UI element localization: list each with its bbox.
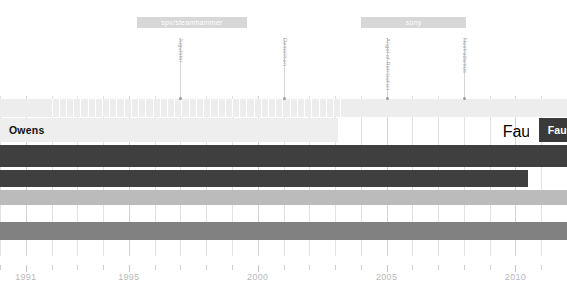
band-tickmark — [59, 99, 60, 117]
axis-label-2000: 2000 — [247, 272, 268, 282]
axis-label-2005: 2005 — [376, 272, 397, 282]
axis-tick-minor — [52, 265, 53, 270]
band-tickmark — [210, 99, 211, 117]
record-label-bar-spv-steamhammer: spv/steamhammer — [137, 17, 248, 28]
band-tickmark — [232, 99, 233, 117]
axis-tick-minor — [309, 265, 310, 270]
axis-tick-major — [258, 265, 259, 272]
band-tickmark — [304, 99, 305, 117]
axis-tick-minor — [155, 265, 156, 270]
band-tickmark — [275, 99, 276, 117]
bar-label-owens: Owens — [0, 124, 44, 136]
band-tickmark — [73, 99, 74, 117]
band-tickmark — [174, 99, 175, 117]
axis-tick-minor — [180, 265, 181, 270]
band-tickmark — [326, 99, 327, 117]
axis-tick-minor — [541, 265, 542, 270]
axis-tick-minor — [0, 265, 1, 270]
band-tickmark — [80, 99, 81, 117]
band-tickmark — [203, 99, 204, 117]
band-tickmark — [52, 99, 53, 117]
bar-faulkner[interactable]: Faulkner — [539, 118, 567, 142]
band-tickmark — [102, 99, 103, 117]
band-tickmark — [160, 99, 161, 117]
band-tickmark — [88, 99, 89, 117]
band-tickmark — [268, 99, 269, 117]
axis-tick-major — [129, 265, 130, 272]
band-tickmark — [145, 99, 146, 117]
bar-label-faulkner: Faulkner — [539, 124, 567, 136]
annotation-label: Jugulator — [178, 38, 184, 62]
bar-bar-5[interactable] — [0, 222, 567, 240]
bar-owens[interactable]: Owens — [0, 118, 338, 142]
band-tickmark — [95, 99, 96, 117]
axis-tick-minor — [103, 265, 104, 270]
axis-tick-minor — [490, 265, 491, 270]
record-label-text: sony — [406, 19, 422, 26]
band-tickmark — [297, 99, 298, 117]
band-tickmark — [225, 99, 226, 117]
bar-bar-3[interactable] — [0, 170, 528, 187]
axis-tick-minor — [284, 265, 285, 270]
band-tickmark — [167, 99, 168, 117]
band-tickmark — [124, 99, 125, 117]
band-tickmark — [116, 99, 117, 117]
axis-tick-minor — [438, 265, 439, 270]
annotation-label: Angel of Retribution — [385, 38, 391, 90]
band-tickmark — [189, 99, 190, 117]
bar-bar-4[interactable] — [0, 190, 567, 205]
annotation-label: Nostradamus — [462, 38, 468, 73]
annotation-dot — [463, 97, 466, 100]
band-tickmark — [311, 99, 312, 117]
band-tickmark — [282, 99, 283, 117]
record-label-bar-sony: sony — [361, 17, 467, 28]
baseline-strip — [0, 256, 567, 265]
band-tickmark — [109, 99, 110, 117]
axis-tick-minor — [335, 265, 336, 270]
axis-tick-minor — [206, 265, 207, 270]
band-tickmark — [218, 99, 219, 117]
annotation-dot — [283, 97, 286, 100]
band-tickmark — [319, 99, 320, 117]
band-tickmark — [138, 99, 139, 117]
timeline-chart: spv/steamhammersonyJugulatorDemolitionAn… — [0, 0, 567, 299]
band-tickmark — [246, 99, 247, 117]
bar-bar-2[interactable] — [0, 145, 567, 167]
band-tickmark — [196, 99, 197, 117]
axis-tick-minor — [464, 265, 465, 270]
axis-tick-major — [26, 265, 27, 272]
band-tickmark — [131, 99, 132, 117]
axis-tick-minor — [412, 265, 413, 270]
band-tickmark — [261, 99, 262, 117]
annotation-dot — [179, 97, 182, 100]
axis-tick-minor — [361, 265, 362, 270]
annotation-label: Demolition — [282, 38, 288, 66]
axis-tick-major — [387, 265, 388, 272]
axis-label-1995: 1995 — [118, 272, 139, 282]
band-tickmark — [181, 99, 182, 117]
band-tickmark — [254, 99, 255, 117]
band-tickmark — [66, 99, 67, 117]
annotation-dot — [386, 97, 389, 100]
band-tickmark — [239, 99, 240, 117]
band-tickmark — [153, 99, 154, 117]
axis-tick-minor — [77, 265, 78, 270]
axis-label-2010: 2010 — [505, 272, 526, 282]
axis-tick-minor — [232, 265, 233, 270]
band-tickmark — [340, 99, 341, 117]
axis-tick-major — [515, 265, 516, 272]
band-tickmark — [290, 99, 291, 117]
axis-label-1991: 1991 — [15, 272, 36, 282]
header-band — [0, 99, 567, 117]
record-label-text: spv/steamhammer — [161, 19, 222, 26]
band-tickmark — [333, 99, 334, 117]
